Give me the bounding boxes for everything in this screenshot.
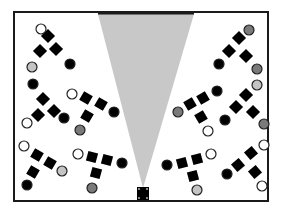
desk: [36, 92, 50, 106]
seat-white: [36, 24, 46, 34]
seat-white: [257, 181, 267, 191]
desk-group-left-bottom-center: [73, 149, 127, 193]
desk-group-left-top: [27, 24, 75, 72]
seat-black: [162, 160, 172, 170]
desk: [90, 167, 102, 179]
seat-black: [65, 59, 75, 69]
desk: [187, 170, 199, 182]
seat-white: [22, 118, 32, 128]
desk: [86, 151, 98, 163]
desk: [191, 153, 203, 165]
desk: [31, 108, 45, 122]
seat-dark: [244, 25, 254, 35]
desk: [33, 44, 47, 58]
seat-black: [222, 169, 232, 179]
seat-dark: [75, 125, 85, 135]
desk-group-right-top: [214, 25, 262, 74]
desk-group-left-middle: [22, 79, 69, 128]
seat-white: [203, 126, 213, 136]
desk: [80, 109, 94, 123]
desk: [229, 100, 243, 114]
seat-white: [73, 149, 83, 159]
seat-dark: [87, 183, 97, 193]
desk: [79, 91, 93, 105]
desk-group-left-center: [67, 89, 119, 135]
desk-group-right-center: [173, 86, 222, 136]
room-layout-diagram: [0, 0, 284, 217]
desk-group-right-bottom-center: [162, 149, 216, 195]
desk: [239, 88, 253, 102]
diagram-canvas: [0, 0, 284, 217]
desk-group-right-middle: [220, 80, 269, 129]
desk-group-right-bottom: [222, 140, 269, 191]
desk: [49, 42, 63, 56]
desk: [244, 146, 258, 160]
seat-white: [206, 149, 216, 159]
desk: [222, 44, 236, 58]
seat-light: [57, 166, 67, 176]
camera-icon: [137, 187, 149, 200]
desk: [26, 165, 40, 179]
camera-corner: [146, 188, 148, 190]
seat-black: [214, 59, 224, 69]
desk-group-left-bottom: [19, 141, 67, 190]
seat-white: [259, 140, 269, 150]
seat-light: [252, 80, 262, 90]
seat-black: [117, 158, 127, 168]
seat-black: [212, 86, 222, 96]
desk: [43, 156, 57, 170]
seat-black: [220, 115, 230, 125]
desk: [239, 49, 253, 63]
seat-black: [28, 79, 38, 89]
desk: [232, 31, 246, 45]
camera-corner: [138, 188, 140, 190]
seat-dark: [173, 107, 183, 117]
seat-dark: [252, 64, 262, 74]
desk: [94, 97, 108, 111]
seat-light: [192, 185, 202, 195]
camera-corner: [146, 197, 148, 199]
desk: [248, 165, 262, 179]
desk: [101, 154, 113, 166]
seat-white: [19, 141, 29, 151]
seat-white: [67, 89, 77, 99]
desk: [246, 105, 260, 119]
desk: [176, 157, 188, 169]
seat-dark: [259, 119, 269, 129]
desk: [30, 148, 44, 162]
seat-black: [109, 107, 119, 117]
desk: [231, 158, 245, 172]
seat-black: [22, 180, 32, 190]
desk: [196, 91, 210, 105]
seat-black: [59, 113, 69, 123]
desk: [183, 97, 197, 111]
desk: [194, 110, 208, 124]
seat-light: [27, 62, 37, 72]
camera-corner: [138, 197, 140, 199]
